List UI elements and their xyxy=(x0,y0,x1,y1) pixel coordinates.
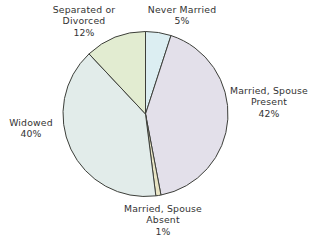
pie-chart: Never Married 5% Separated or Divorced 1… xyxy=(0,0,313,245)
slice-label-widowed-line1: Widowed xyxy=(0,117,62,128)
slice-label-widowed-percent: 40% xyxy=(0,128,62,139)
slice-label-separated-percent: 12% xyxy=(32,27,136,38)
slice-label-married-absent-line2: Absent xyxy=(103,214,223,225)
slice-label-married-present-percent: 42% xyxy=(226,108,312,119)
slice-label-separated-or-divorced: Separated or Divorced 12% xyxy=(32,4,136,38)
slice-label-married-present-line2: Present xyxy=(226,96,312,107)
slice-label-married-absent-percent: 1% xyxy=(103,226,223,237)
slice-label-never-married: Never Married 5% xyxy=(134,4,230,27)
slice-label-married-present-line1: Married, Spouse xyxy=(226,85,312,96)
slice-label-widowed: Widowed 40% xyxy=(0,117,62,140)
slice-label-never-married-line1: Never Married xyxy=(134,4,230,15)
slice-label-never-married-percent: 5% xyxy=(134,15,230,26)
slice-label-separated-line1: Separated or xyxy=(32,4,136,15)
slice-label-separated-line2: Divorced xyxy=(32,15,136,26)
slice-label-married-absent-line1: Married, Spouse xyxy=(103,203,223,214)
slice-label-married-spouse-present: Married, Spouse Present 42% xyxy=(226,85,312,119)
slice-label-married-spouse-absent: Married, Spouse Absent 1% xyxy=(103,203,223,237)
pie-slices xyxy=(63,32,228,197)
